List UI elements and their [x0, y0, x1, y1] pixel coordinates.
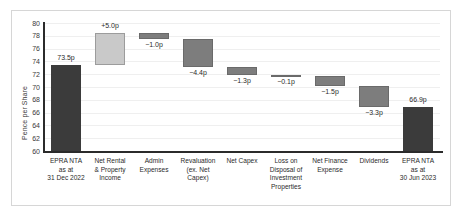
waterfall-bar: [95, 33, 125, 65]
bar-data-label: −1.5p: [302, 88, 358, 96]
x-axis-category-line: Income: [83, 174, 137, 183]
x-axis-category-line: 30 Jun 2023: [391, 174, 445, 183]
waterfall-bar: [51, 65, 81, 151]
x-axis-category-line: Properties: [259, 183, 313, 192]
waterfall-bar: [359, 86, 389, 107]
bar-data-label: 73.5p: [38, 54, 94, 62]
x-axis-category-line: as at: [391, 166, 445, 175]
y-axis-tick-label: 70: [14, 84, 40, 91]
x-axis-category-line: Capex): [171, 174, 225, 183]
waterfall-bar: [315, 76, 345, 86]
bar-data-label: +5.0p: [82, 22, 138, 30]
y-axis-line: [43, 22, 45, 152]
y-axis-tick-label: 76: [14, 45, 40, 52]
y-axis-tick-label: 80: [14, 20, 40, 27]
bar-data-label: −1.0p: [126, 41, 182, 49]
y-axis-tick-label: 60: [14, 148, 40, 155]
y-axis-tick-label: 68: [14, 96, 40, 103]
y-axis-tick-label: 78: [14, 32, 40, 39]
bar-data-label: 66.9p: [390, 96, 446, 104]
waterfall-bar: [139, 33, 169, 39]
bar-data-label: −4.4p: [170, 69, 226, 77]
bar-data-label: −0.1p: [258, 78, 314, 86]
x-axis-line: [43, 151, 443, 153]
bar-data-label: −3.3p: [346, 109, 402, 117]
waterfall-bar: [227, 67, 257, 75]
y-axis-tick-label: 62: [14, 135, 40, 142]
x-axis-category-line: EPRA NTA: [391, 157, 445, 166]
x-axis-category-line: Investment: [259, 174, 313, 183]
y-axis-tick-label: 66: [14, 109, 40, 116]
waterfall-bar: [403, 107, 433, 151]
waterfall-bar: [183, 39, 213, 67]
x-axis-category-line: (ex. Net: [171, 166, 225, 175]
top-blank-strip: [0, 0, 463, 7]
y-axis-tick-label: 64: [14, 122, 40, 129]
gridline: [44, 138, 440, 139]
y-axis-tick-label: 74: [14, 58, 40, 65]
y-axis-tick-label: 72: [14, 71, 40, 78]
chart-screenshot: Pence per Share 8078767472706866646260 7…: [0, 0, 463, 218]
x-axis-category-label: EPRA NTAas at30 Jun 2023: [391, 157, 445, 183]
x-axis-category-line: Expense: [303, 166, 357, 175]
gridline: [44, 125, 440, 126]
